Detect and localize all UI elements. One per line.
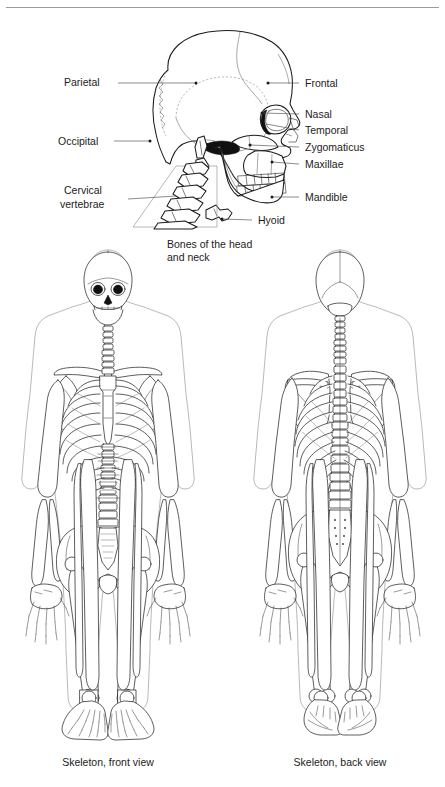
figure-skeleton-front-lowerlegs — [8, 460, 208, 700]
figure-skeleton-back-feet — [240, 690, 440, 760]
label-occipital: Occipital — [58, 135, 98, 147]
label-maxillae: Maxillae — [305, 158, 344, 170]
label-cervical-vertebrae-line2: vertebrae — [60, 198, 105, 210]
label-temporal: Temporal — [305, 124, 348, 136]
cervical-vertebrae-drawing — [133, 162, 217, 229]
label-frontal: Frontal — [305, 77, 338, 89]
caption-skeleton-front: Skeleton, front view — [8, 756, 208, 769]
label-parietal: Parietal — [64, 76, 100, 88]
label-mandible: Mandible — [305, 191, 348, 203]
page-rule — [6, 7, 439, 8]
feet-back-drawing — [304, 691, 376, 735]
lower-legs-front-drawing — [74, 460, 142, 690]
figure-skull-lateral: Parietal Occipital Cervical vertebrae Fr… — [0, 14, 445, 229]
label-nasal: Nasal — [305, 108, 332, 120]
figure-skeleton-front-feet — [8, 690, 208, 760]
caption-skeleton-back: Skeleton, back view — [240, 756, 440, 769]
anatomy-plate: Parietal Occipital Cervical vertebrae Fr… — [0, 0, 445, 787]
label-hyoid: Hyoid — [258, 214, 285, 226]
figure-skeleton-back-lowerlegs — [240, 460, 440, 700]
label-cervical-vertebrae-line1: Cervical — [64, 184, 102, 196]
lower-legs-back-drawing — [306, 460, 374, 690]
label-zygomaticus: Zygomaticus — [305, 141, 365, 153]
